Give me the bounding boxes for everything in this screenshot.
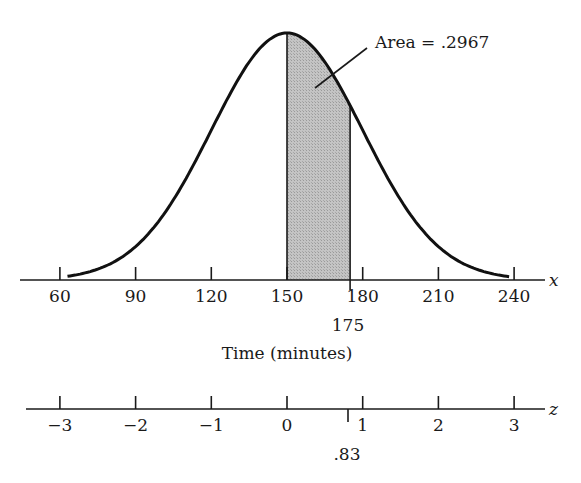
axis-tick-label: 2 [433, 415, 444, 435]
x-axis-title: Time (minutes) [222, 343, 353, 363]
axis-tick-label: 150 [271, 286, 303, 306]
axis-tick-label: 180 [346, 286, 378, 306]
axis-tick-label: 90 [125, 286, 147, 306]
axis-tick-label: 60 [49, 286, 71, 306]
z-axis-ticks: −3−2−10123 [47, 396, 519, 435]
z-marker-label: .83 [333, 444, 360, 464]
axis-tick-label: 210 [422, 286, 454, 306]
axis-tick-label: 3 [509, 415, 520, 435]
axis-tick-label: 240 [498, 286, 530, 306]
shaded-area-region [287, 33, 350, 280]
z-axis-variable: z [548, 399, 559, 419]
x-axis-variable: x [549, 270, 559, 290]
x-marker-label: 175 [332, 315, 364, 335]
normal-distribution-figure: Area = .2967 x 6090120150180210240 175 T… [0, 0, 581, 483]
axis-tick-label: −2 [123, 415, 148, 435]
axis-tick-label: −3 [47, 415, 72, 435]
axis-tick-label: −1 [199, 415, 224, 435]
area-annotation: Area = .2967 [374, 32, 489, 52]
axis-tick-label: 0 [282, 415, 293, 435]
axis-tick-label: 120 [195, 286, 227, 306]
axis-tick-label: 1 [357, 415, 368, 435]
